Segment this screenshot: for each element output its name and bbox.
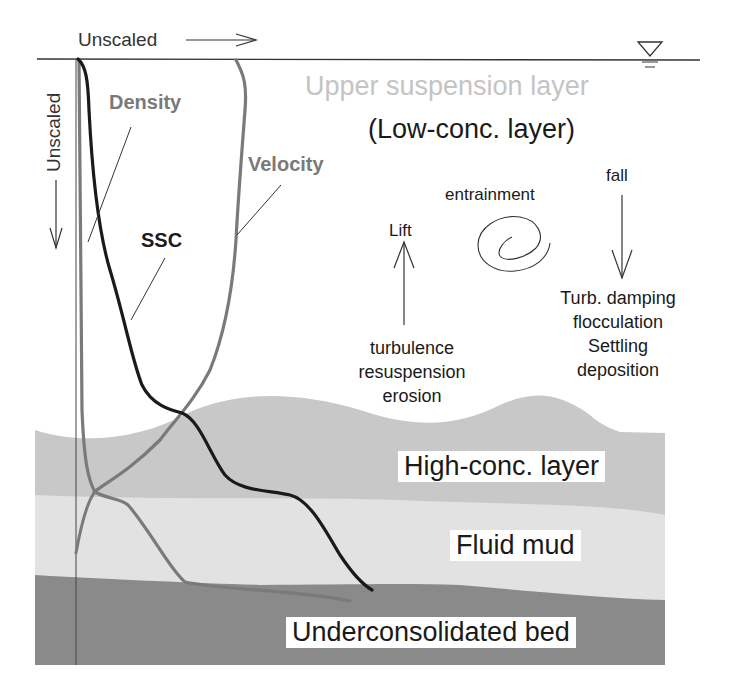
entrainment-label: entrainment (445, 186, 535, 203)
cause-turbulence: turbulence (357, 336, 467, 360)
water-surface-line (37, 59, 700, 60)
ssc-leader-line (131, 258, 165, 320)
low-conc-layer-label: (Low-conc. layer) (368, 116, 575, 143)
density-label: Density (109, 92, 181, 112)
y-axis-arrow-icon (50, 180, 62, 248)
fall-label: fall (606, 167, 628, 184)
cause-resuspension: resuspension (357, 360, 467, 384)
water-level-icon (638, 42, 662, 67)
underconsolidated-bed-label: Underconsolidated bed (286, 617, 576, 648)
lift-arrow-icon (394, 242, 414, 325)
y-axis-label: Unscaled (44, 93, 63, 172)
fluid-mud-label: Fluid mud (450, 530, 581, 561)
up-causes-list: turbulence resuspension erosion (357, 336, 467, 408)
high-conc-layer-label: High-conc. layer (398, 451, 605, 482)
x-axis-label: Unscaled (78, 30, 157, 49)
cause-deposition: deposition (536, 358, 700, 382)
down-causes-list: Turb. damping flocculation Settling depo… (536, 286, 700, 382)
cause-flocculation: flocculation (536, 310, 700, 334)
upper-suspension-layer-label: Upper suspension layer (305, 73, 589, 100)
diagram-canvas: Unscaled Unscaled Density Velocity SSC U… (0, 0, 732, 700)
cause-turb-damping: Turb. damping (536, 286, 700, 310)
ssc-label: SSC (141, 230, 182, 250)
fall-arrow-icon (612, 195, 632, 278)
x-axis-arrow-icon (186, 34, 256, 46)
cause-settling: Settling (536, 334, 700, 358)
velocity-label: Velocity (248, 154, 324, 174)
cause-erosion: erosion (357, 384, 467, 408)
lift-label: Lift (389, 222, 412, 239)
velocity-leader-line (237, 185, 281, 235)
entrainment-spiral-icon (478, 217, 550, 272)
